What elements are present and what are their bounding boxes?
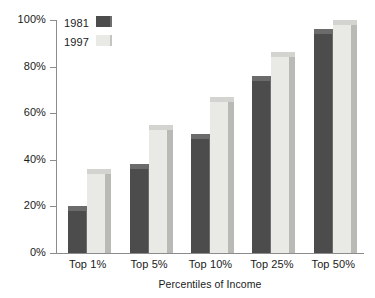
y-axis-tick bbox=[50, 160, 57, 161]
bar-group bbox=[191, 20, 234, 253]
bar-side-face bbox=[289, 57, 295, 253]
bar-1981-top-25- bbox=[252, 81, 270, 253]
x-axis-tick-label: Top 1% bbox=[57, 258, 118, 271]
bar-chart: 1981 1997 0%20%40%60%80%100% Top 1%Top 5… bbox=[0, 0, 375, 298]
bar-top-face bbox=[333, 20, 357, 25]
bar-1997-top-10- bbox=[210, 102, 228, 253]
bar-top-face bbox=[271, 52, 295, 57]
y-axis-tick-label: 60% bbox=[0, 107, 46, 118]
bar-front-face bbox=[333, 25, 351, 253]
bar-1997-top-50- bbox=[333, 25, 351, 253]
bar-group bbox=[130, 20, 173, 253]
y-axis-tick-label: 100% bbox=[0, 14, 46, 25]
bar-front-face bbox=[314, 34, 332, 253]
bar-side-face bbox=[351, 25, 357, 253]
y-axis-tick bbox=[50, 20, 57, 21]
bar-front-face bbox=[130, 169, 148, 253]
x-axis-tick-label: Top 5% bbox=[118, 258, 179, 271]
bar-side-face bbox=[167, 130, 173, 253]
bar-top-face bbox=[87, 169, 111, 174]
bar-1981-top-1- bbox=[68, 211, 86, 253]
y-axis-tick-label: 20% bbox=[0, 200, 46, 211]
bar-front-face bbox=[271, 57, 289, 253]
bar-front-face bbox=[87, 174, 105, 253]
bar-front-face bbox=[191, 139, 209, 253]
bar-group bbox=[314, 20, 357, 253]
y-axis-tick bbox=[50, 67, 57, 68]
bar-side-face bbox=[105, 174, 111, 253]
x-axis-title: Percentiles of Income bbox=[56, 278, 364, 290]
bar-1997-top-1- bbox=[87, 174, 105, 253]
y-axis-tick-label: 40% bbox=[0, 154, 46, 165]
x-axis-line bbox=[56, 253, 364, 254]
x-axis-tick-label: Top 50% bbox=[303, 258, 364, 271]
y-axis-tick-label: 80% bbox=[0, 61, 46, 72]
bar-top-face bbox=[210, 97, 234, 102]
bar-front-face bbox=[252, 81, 270, 253]
bar-side-face bbox=[228, 102, 234, 253]
bar-group bbox=[68, 20, 111, 253]
y-axis-tick-label: 0% bbox=[0, 247, 46, 258]
x-axis-tick-label: Top 25% bbox=[241, 258, 302, 271]
bar-1997-top-25- bbox=[271, 57, 289, 253]
bar-1981-top-10- bbox=[191, 139, 209, 253]
bar-front-face bbox=[68, 211, 86, 253]
bar-front-face bbox=[210, 102, 228, 253]
bar-1981-top-5- bbox=[130, 169, 148, 253]
bar-front-face bbox=[149, 130, 167, 253]
y-axis-tick bbox=[50, 206, 57, 207]
bar-top-face bbox=[149, 125, 173, 130]
bar-group bbox=[252, 20, 295, 253]
y-axis-tick bbox=[50, 113, 57, 114]
bar-1981-top-50- bbox=[314, 34, 332, 253]
y-axis-tick bbox=[50, 253, 57, 254]
x-axis-tick-label: Top 10% bbox=[180, 258, 241, 271]
bar-1997-top-5- bbox=[149, 130, 167, 253]
plot-area bbox=[57, 20, 364, 253]
